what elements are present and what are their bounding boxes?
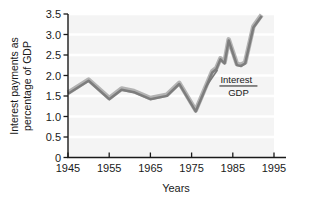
y-axis-title: Interest payments as percentage of GDP <box>8 37 33 134</box>
chart-figure: Interest GDP 00.51.01.52.02.53.03.5 1945… <box>0 0 327 198</box>
y-tick-label-2: 1.0 <box>46 111 61 123</box>
x-tick-label-3: 1975 <box>179 162 203 174</box>
y-tick-label-7: 3.5 <box>46 8 61 20</box>
y-tick-label-1: 0.5 <box>46 131 61 143</box>
y-tick-label-5: 2.5 <box>46 49 61 61</box>
interest-gdp-line-chart: Interest GDP 00.51.01.52.02.53.03.5 1945… <box>0 0 327 198</box>
x-tick-label-2: 1965 <box>138 162 162 174</box>
y-axis-title-line1: Interest payments as <box>8 37 20 134</box>
x-tick-label-5: 1995 <box>262 162 286 174</box>
x-tick-label-1: 1955 <box>97 162 121 174</box>
y-tick-label-6: 3.0 <box>46 29 61 41</box>
x-tick-label-0: 1945 <box>56 162 80 174</box>
y-tick-label-4: 2.0 <box>46 70 61 82</box>
x-tick-label-4: 1985 <box>221 162 245 174</box>
x-axis-title: Years <box>162 182 190 194</box>
annotation-numerator: Interest <box>220 74 252 85</box>
annotation-denominator: GDP <box>228 87 249 98</box>
y-tick-label-3: 1.5 <box>46 90 61 102</box>
y-axis-title-line2: percentage of GDP <box>21 41 33 131</box>
